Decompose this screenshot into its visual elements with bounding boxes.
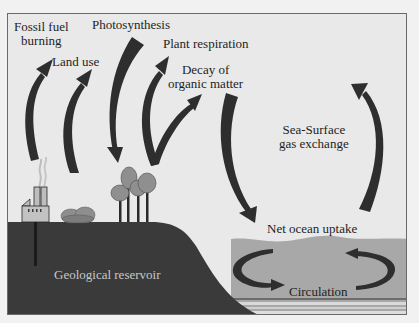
arrow-photosynthesis-down: [107, 37, 144, 163]
label-circulation: Circulation: [289, 285, 348, 299]
tree-icon: [111, 167, 156, 222]
label-photosynthesis: Photosynthesis: [92, 18, 170, 32]
shrub-icon: [61, 207, 95, 223]
label-fossil-fuel-line2: burning: [14, 34, 69, 48]
label-fossil-fuel-line1: Fossil fuel: [14, 20, 69, 34]
label-decay-line2: organic matter: [168, 77, 243, 91]
label-decay-of-organic-matter: Decay of organic matter: [168, 63, 243, 91]
label-fossil-fuel-burning: Fossil fuel burning: [14, 20, 69, 48]
label-geological-reservoir: Geological reservoir: [54, 268, 160, 282]
arrow-land-use-up: [63, 69, 92, 173]
label-plant-respiration: Plant respiration: [163, 37, 249, 51]
label-land-use: Land use: [52, 55, 99, 69]
label-decay-line1: Decay of: [168, 63, 243, 77]
arrow-decay-up: [151, 94, 202, 166]
carbon-cycle-diagram: Fossil fuel burning Land use Photosynthe…: [7, 13, 407, 315]
arrow-sea-surface-up: [351, 83, 383, 212]
well-pipe: [34, 222, 37, 266]
arrow-net-ocean-uptake-down: [221, 93, 257, 223]
label-sea-surface-line2: gas exchange: [279, 137, 349, 151]
label-sea-surface-line1: Sea-Surface: [279, 123, 349, 137]
label-sea-surface-gas-exchange: Sea-Surface gas exchange: [279, 123, 349, 151]
arrow-plant-respiration-up: [142, 56, 169, 166]
label-net-ocean-uptake: Net ocean uptake: [267, 222, 357, 236]
arrow-fossil-fuel-up: [25, 59, 53, 161]
